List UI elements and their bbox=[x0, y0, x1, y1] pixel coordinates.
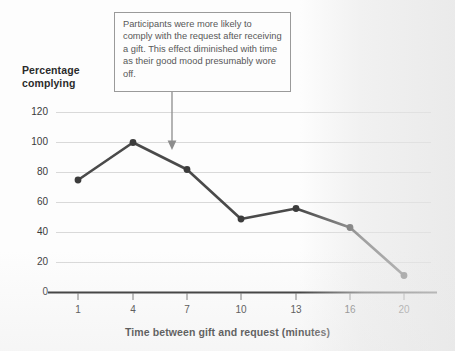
gridlines bbox=[56, 113, 431, 263]
data-point-markers bbox=[75, 139, 408, 279]
x-tick-label-7: 7 bbox=[172, 304, 202, 315]
y-tick-label-20: 20 bbox=[14, 256, 48, 267]
y-tick-label-120: 120 bbox=[14, 106, 48, 117]
data-point-13 bbox=[293, 205, 300, 212]
x-tick-label-4: 4 bbox=[118, 304, 148, 315]
annotation-arrow bbox=[168, 92, 177, 150]
annotation-text: Participants were more likely to comply … bbox=[123, 18, 283, 80]
annotation-callout: Participants were more likely to comply … bbox=[114, 12, 291, 92]
x-axis-title: Time between gift and request (minutes) bbox=[0, 326, 455, 338]
x-tick-label-13: 13 bbox=[281, 304, 311, 315]
y-tick-label-80: 80 bbox=[14, 166, 48, 177]
data-point-20 bbox=[401, 272, 408, 279]
data-point-1 bbox=[75, 177, 82, 184]
chart-page: Percentage complying 120 100 80 60 40 20… bbox=[0, 0, 455, 351]
x-tick-label-10: 10 bbox=[226, 304, 256, 315]
y-axis-title-line1: Percentage bbox=[22, 64, 80, 77]
x-tick-label-16: 16 bbox=[335, 304, 365, 315]
y-axis-title: Percentage complying bbox=[22, 64, 80, 90]
data-line bbox=[78, 143, 404, 276]
data-point-7 bbox=[184, 166, 191, 173]
data-point-16 bbox=[347, 224, 354, 231]
x-tick-label-1: 1 bbox=[63, 304, 93, 315]
x-tick-marks bbox=[78, 293, 404, 300]
y-tick-label-60: 60 bbox=[14, 196, 48, 207]
x-tick-label-20: 20 bbox=[389, 304, 419, 315]
data-point-4 bbox=[130, 139, 137, 146]
y-axis-title-line2: complying bbox=[22, 77, 80, 90]
y-tick-label-100: 100 bbox=[14, 136, 48, 147]
y-tick-label-40: 40 bbox=[14, 226, 48, 237]
y-tick-label-0: 0 bbox=[14, 286, 48, 297]
data-point-10 bbox=[238, 216, 245, 223]
